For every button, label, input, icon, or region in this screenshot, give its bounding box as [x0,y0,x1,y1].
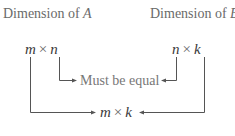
inner-left-connector [60,57,75,81]
outer-left-connector [31,57,94,113]
arrow-right-icon [72,79,77,83]
inner-right-connector [164,57,177,81]
connector-lines [0,0,235,136]
arrow-left-icon [161,79,166,83]
arrow-right-icon [91,111,96,115]
arrow-left-icon [139,111,144,115]
outer-right-connector [142,57,205,113]
